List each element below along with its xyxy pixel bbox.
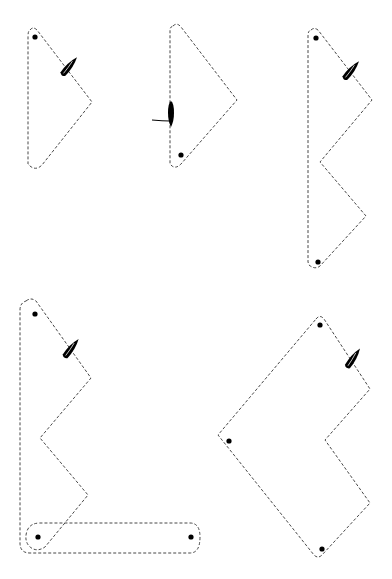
course-diagram-1 [28,28,92,168]
sailboat-icon [344,347,363,370]
mark-buoy-icon [313,35,318,40]
course-diagram-2 [152,24,237,167]
mark-buoy-icon [35,534,40,539]
course-diagram-3 [308,29,372,268]
mark-buoy-icon [317,322,322,327]
course-path [170,24,237,167]
mark-buoy-icon [226,438,231,443]
course-diagram-4 [20,299,200,553]
sailboat-icon [62,337,82,359]
course-path [308,29,372,268]
course-diagram-5 [218,317,370,558]
sailboat-icon [168,101,174,127]
mark-buoy-icon [178,152,183,157]
course-path [20,299,200,553]
sailboat-icon [59,55,79,77]
mark-buoy-icon [319,546,324,551]
course-path [218,317,370,558]
boat-wake-line [152,120,170,121]
mark-buoy-icon [32,311,37,316]
sailboat-icon [341,59,361,81]
mark-buoy-icon [188,534,193,539]
course-path [28,28,92,168]
mark-buoy-icon [315,259,320,264]
courses-canvas [0,0,392,579]
mark-buoy-icon [32,34,37,39]
